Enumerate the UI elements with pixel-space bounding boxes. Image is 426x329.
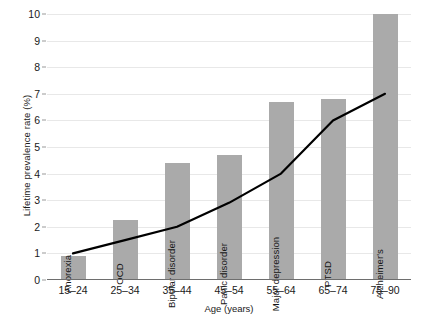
y-tick-mark [42,226,46,227]
y-axis-title: Lifetime prevalence rate (%) [21,66,32,246]
x-tick-label: 35–44 [151,284,203,296]
bar-label: Bipolar disorder [166,240,177,308]
x-axis-title: Age (years) [47,303,411,314]
bar[interactable]: Alzheimer's [373,14,398,280]
x-tick-label: 45–54 [203,284,255,296]
x-tick-label: 75–90 [359,284,411,296]
y-tick-label: 9 [34,35,40,47]
y-tick-label: 8 [34,61,40,73]
y-tick-mark [42,253,46,254]
bar-label: Major depression [270,237,281,311]
plot-area: 012345678910 AnorexiaOCDBipolar disorder… [47,14,411,280]
y-tick-mark [42,200,46,201]
prevalence-chart: Lifetime prevalence rate (%) 01234567891… [0,0,426,329]
bar[interactable]: OCD [113,220,138,280]
bar[interactable]: PTSD [321,99,346,280]
bar[interactable]: Anorexia [61,256,86,280]
y-tick-mark [42,40,46,41]
bar-slot: Panic disorder [203,14,255,280]
x-tick-labels: 15–2425–3435–4445–5455–6465–7475–90 [47,284,411,296]
y-tick-mark [42,14,46,15]
bar-slot: PTSD [307,14,359,280]
bar-slot: Alzheimer's [359,14,411,280]
y-tick-mark [42,147,46,148]
x-tick-label: 25–34 [99,284,151,296]
x-axis-line [47,279,411,281]
y-tick-label: 4 [34,168,40,180]
bar-slot: Major depression [255,14,307,280]
bar-label: PTSD [322,261,333,287]
x-tick-label: 55–64 [255,284,307,296]
y-tick-label: 0 [34,274,40,286]
y-tick-label: 10 [28,8,40,20]
y-tick-label: 1 [34,247,40,259]
bar[interactable]: Bipolar disorder [165,163,190,280]
y-tick-mark [42,93,46,94]
bar-group: AnorexiaOCDBipolar disorderPanic disorde… [47,14,411,280]
x-tick-label: 15–24 [47,284,99,296]
bar-slot: OCD [99,14,151,280]
bar-slot: Anorexia [47,14,99,280]
y-tick-label: 2 [34,221,40,233]
bar-slot: Bipolar disorder [151,14,203,280]
bar-label: OCD [114,263,125,284]
y-tick-mark [42,173,46,174]
y-tick-mark [42,280,46,281]
bar[interactable]: Panic disorder [217,155,242,280]
bar[interactable]: Major depression [269,102,294,280]
y-tick-label: 5 [34,141,40,153]
x-tick-label: 65–74 [307,284,359,296]
y-tick-label: 7 [34,88,40,100]
y-tick-mark [42,120,46,121]
y-tick-label: 3 [34,194,40,206]
y-tick-label: 6 [34,114,40,126]
y-tick-mark [42,67,46,68]
